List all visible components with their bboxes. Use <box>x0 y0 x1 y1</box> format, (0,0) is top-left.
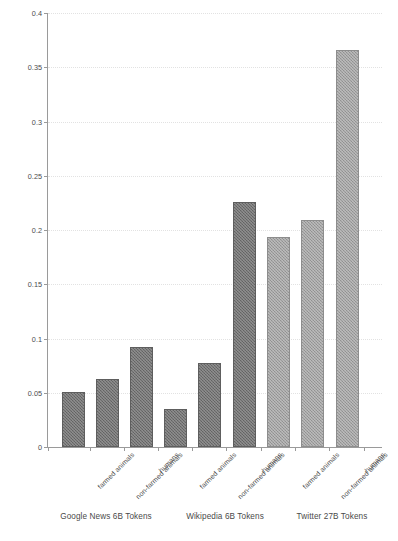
y-tick-label: 0.3 <box>32 117 42 126</box>
bar <box>96 379 119 447</box>
y-tick-label: 0.15 <box>28 280 42 289</box>
x-group-label: Wikipedia 6B Tokens <box>186 512 264 521</box>
bar <box>130 347 153 447</box>
bar <box>164 409 187 447</box>
x-axis-category-labels: farmed animalsnon-farmed animalshumansfa… <box>0 451 398 506</box>
y-axis-title: mean word cosine distance <box>8 10 18 170</box>
bars-group <box>48 13 382 447</box>
x-group-label: Twitter 27B Tokens <box>297 512 368 521</box>
y-tick-label: 0.2 <box>32 226 42 235</box>
bar <box>198 363 221 447</box>
bar <box>336 50 359 447</box>
x-category-label: farmed animals <box>96 451 135 490</box>
x-category-label: farmed animals <box>198 451 237 490</box>
x-category-label: farmed animals <box>301 451 340 490</box>
bar <box>233 202 256 447</box>
bar <box>62 392 85 447</box>
x-category-label: humans <box>363 451 386 474</box>
y-tick-label: 0.4 <box>32 9 42 18</box>
bar <box>267 237 290 447</box>
x-group-label: Google News 6B Tokens <box>60 512 152 521</box>
plot-area: 00.050.10.150.20.250.30.350.4 <box>47 13 382 448</box>
y-tick-label: 0.35 <box>28 63 42 72</box>
y-tick-label: 0.25 <box>28 171 42 180</box>
y-tick-label: 0.05 <box>28 388 42 397</box>
x-category-label: humans <box>260 451 283 474</box>
bar <box>301 220 324 447</box>
x-axis-group-labels: Google News 6B TokensWikipedia 6B Tokens… <box>0 512 398 532</box>
bar-chart: mean word cosine distance 00.050.10.150.… <box>0 0 398 541</box>
y-tick-label: 0.1 <box>32 334 42 343</box>
